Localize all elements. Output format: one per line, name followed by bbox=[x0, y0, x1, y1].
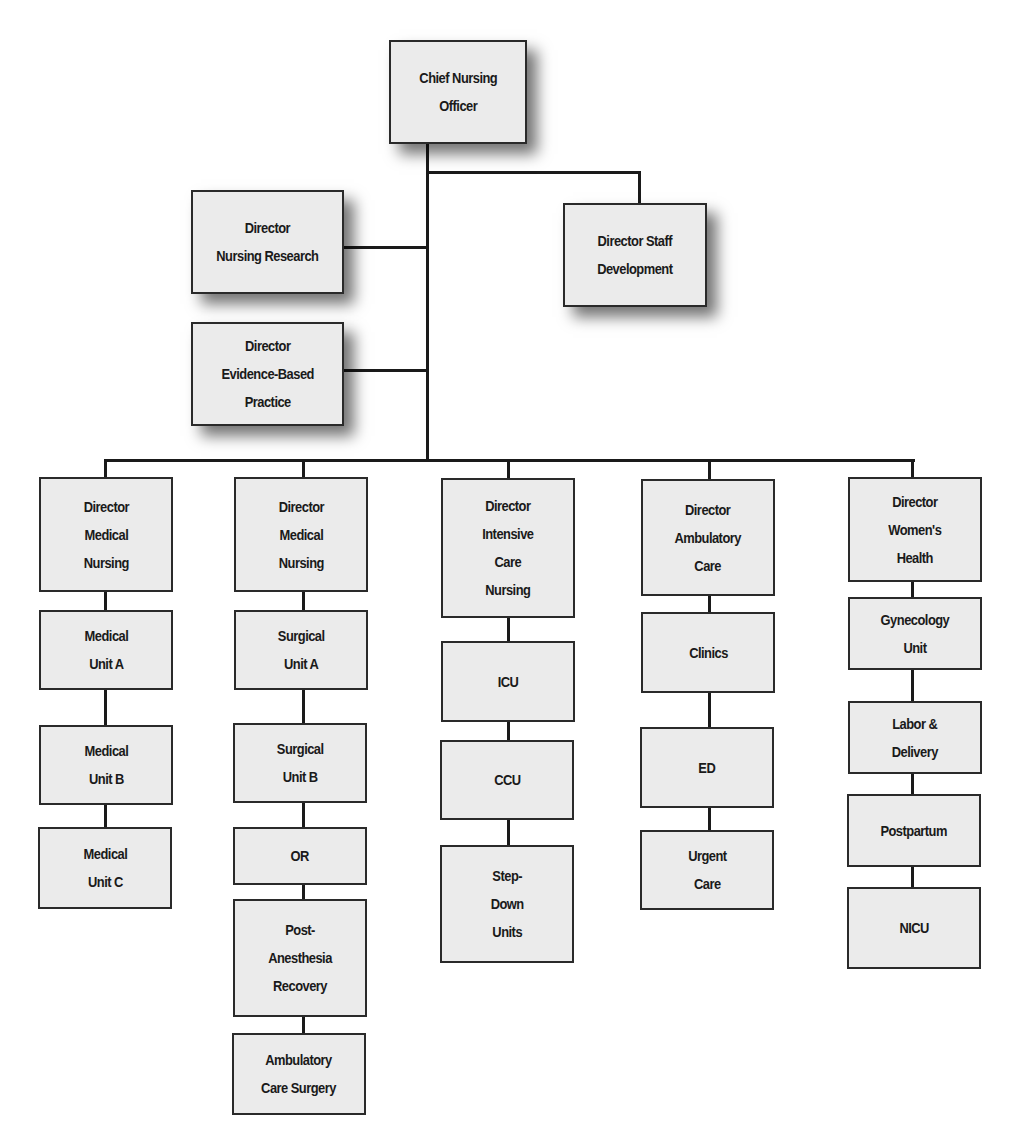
box-label: Director Medical Nursing bbox=[83, 493, 128, 577]
box-or: OR bbox=[233, 827, 367, 885]
box-ccu: CCU bbox=[440, 740, 574, 820]
box-director-ambulatory-care: Director Ambulatory Care bbox=[641, 479, 775, 596]
box-label: ICU bbox=[498, 668, 519, 696]
box-label: Surgical Unit B bbox=[277, 735, 324, 791]
box-nicu: NICU bbox=[847, 887, 981, 969]
box-ambulatory-care-surgery: Ambulatory Care Surgery bbox=[232, 1033, 366, 1115]
box-director-evidence-based-practice: Director Evidence-Based Practice bbox=[191, 322, 344, 426]
box-label: OR bbox=[291, 842, 309, 870]
box-label: Labor & Delivery bbox=[892, 710, 938, 766]
box-label: Surgical Unit A bbox=[278, 622, 325, 678]
box-icu: ICU bbox=[441, 641, 575, 722]
box-label: Director Women's Health bbox=[889, 488, 942, 572]
box-label: Director Staff Development bbox=[597, 227, 672, 283]
connector-drop-col3 bbox=[507, 459, 510, 479]
box-gynecology-unit: Gynecology Unit bbox=[848, 597, 982, 670]
box-director-medical-nursing-2: Director Medical Nursing bbox=[234, 477, 368, 592]
box-postpartum: Postpartum bbox=[847, 794, 981, 867]
box-director-medical-nursing-1: Director Medical Nursing bbox=[39, 477, 173, 592]
box-label: Postpartum bbox=[881, 817, 948, 845]
box-label: ED bbox=[699, 754, 716, 782]
box-director-nursing-research: Director Nursing Research bbox=[191, 190, 344, 294]
box-post-anesthesia-recovery: Post- Anesthesia Recovery bbox=[233, 899, 367, 1017]
box-label: Step- Down Units bbox=[490, 862, 523, 946]
box-labor-delivery: Labor & Delivery bbox=[848, 701, 982, 774]
box-surgical-unit-a: Surgical Unit A bbox=[234, 610, 368, 690]
box-label: Director Ambulatory Care bbox=[675, 496, 742, 580]
box-label: Director Evidence-Based Practice bbox=[221, 332, 313, 416]
box-director-intensive-care-nursing: Director Intensive Care Nursing bbox=[441, 478, 575, 618]
box-label: Post- Anesthesia Recovery bbox=[268, 916, 332, 1000]
box-medical-unit-c: Medical Unit C bbox=[38, 827, 172, 909]
org-chart: Chief Nursing Officer Director Nursing R… bbox=[0, 0, 1022, 1136]
box-director-womens-health: Director Women's Health bbox=[848, 477, 982, 582]
box-label: Director Nursing Research bbox=[216, 214, 318, 270]
box-label: Urgent Care bbox=[688, 842, 726, 898]
connector-staffdev-v bbox=[638, 171, 641, 204]
box-label: Medical Unit B bbox=[84, 737, 128, 793]
box-label: Director Intensive Care Nursing bbox=[482, 492, 533, 604]
box-surgical-unit-b: Surgical Unit B bbox=[233, 723, 367, 803]
box-medical-unit-b: Medical Unit B bbox=[39, 725, 173, 805]
connector-drop-col4 bbox=[708, 459, 711, 479]
box-label: Gynecology Unit bbox=[881, 606, 950, 662]
connector-ebp bbox=[343, 369, 428, 372]
box-label: Clinics bbox=[689, 639, 728, 667]
connector-cno-trunk bbox=[426, 143, 429, 462]
box-clinics: Clinics bbox=[641, 612, 775, 693]
box-chief-nursing-officer: Chief Nursing Officer bbox=[389, 40, 527, 144]
box-label: Medical Unit C bbox=[83, 840, 127, 896]
box-label: CCU bbox=[494, 766, 520, 794]
box-director-staff-development: Director Staff Development bbox=[563, 203, 707, 307]
box-label: Ambulatory Care Surgery bbox=[262, 1046, 337, 1102]
connector-drop-col2 bbox=[302, 459, 305, 478]
connector-drop-col1 bbox=[104, 459, 107, 478]
box-label: Director Medical Nursing bbox=[278, 493, 323, 577]
box-ed: ED bbox=[640, 727, 774, 808]
box-medical-unit-a: Medical Unit A bbox=[39, 610, 173, 690]
box-step-down-units: Step- Down Units bbox=[440, 845, 574, 963]
box-label: NICU bbox=[899, 914, 928, 942]
connector-staffdev-h bbox=[426, 171, 641, 174]
box-label: Chief Nursing Officer bbox=[419, 64, 497, 120]
connector-research bbox=[343, 246, 428, 249]
box-urgent-care: Urgent Care bbox=[640, 830, 774, 910]
box-label: Medical Unit A bbox=[84, 622, 128, 678]
